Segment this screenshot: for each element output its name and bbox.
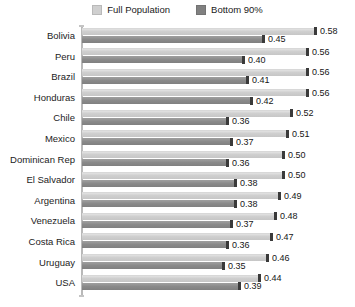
- bar-value-label: 0.46: [268, 252, 290, 265]
- bar-row: Bolivia0.580.45: [0, 26, 355, 47]
- category-label: Uruguay: [0, 256, 75, 270]
- bar-value-label: 0.36: [228, 115, 250, 128]
- plot-area: Bolivia0.580.45Peru0.560.40Brazil0.560.4…: [0, 20, 355, 307]
- bar-row: Brazil0.560.41: [0, 67, 355, 88]
- bar-group: 0.440.39: [82, 273, 355, 294]
- bar-fill-bottom: [82, 180, 234, 187]
- bar-row: USA0.440.39: [0, 273, 355, 294]
- bar-value-label: 0.52: [292, 107, 314, 120]
- bar-fill-bottom: [82, 36, 262, 43]
- y-axis-cap-bottom: [79, 295, 84, 297]
- category-label: Bolivia: [0, 29, 75, 43]
- bar-fill-bottom: [82, 118, 226, 125]
- bar-fill-bottom: [82, 221, 230, 228]
- bar-fill-bottom: [82, 138, 230, 145]
- bar-row: Argentina0.490.38: [0, 191, 355, 212]
- legend-label-bottom-90: Bottom 90%: [211, 5, 263, 15]
- bar-group: 0.500.36: [82, 150, 355, 171]
- bar-row: Dominican Rep0.500.36: [0, 150, 355, 171]
- bar-group: 0.500.38: [82, 170, 355, 191]
- bar-fill-full: [82, 275, 258, 282]
- category-label: Chile: [0, 111, 75, 125]
- chart-legend: Full Population Bottom 90%: [0, 0, 355, 20]
- bar-group: 0.480.37: [82, 211, 355, 232]
- bar-value-label: 0.49: [280, 190, 302, 203]
- bar-row: Peru0.560.40: [0, 47, 355, 68]
- category-label: Honduras: [0, 91, 75, 105]
- category-label: Venezuela: [0, 214, 75, 228]
- bar-value-label: 0.40: [244, 54, 266, 67]
- bar-group: 0.560.40: [82, 47, 355, 68]
- bar-fill-full: [82, 48, 306, 55]
- bar-fill-bottom: [82, 262, 222, 269]
- bar-rows: Bolivia0.580.45Peru0.560.40Brazil0.560.4…: [0, 26, 355, 294]
- bar-value-label: 0.51: [288, 128, 310, 141]
- bar-fill-full: [82, 110, 290, 117]
- bar-fill-bottom: [82, 241, 226, 248]
- legend-item-bottom-90: Bottom 90%: [196, 5, 263, 15]
- bar-group: 0.560.41: [82, 67, 355, 88]
- bar-value-label: 0.56: [308, 87, 330, 100]
- bar-row: El Salvador0.500.38: [0, 170, 355, 191]
- bar-fill-bottom: [82, 56, 242, 63]
- bar-row: Chile0.520.36: [0, 108, 355, 129]
- bar-value-label: 0.39: [240, 280, 262, 293]
- bar-value-label: 0.36: [228, 239, 250, 252]
- bar-value-label: 0.48: [276, 210, 298, 223]
- bar-row: Uruguay0.460.35: [0, 253, 355, 274]
- bar-value-label: 0.58: [316, 25, 338, 38]
- bar-fill-full: [82, 130, 286, 137]
- bar-value-label: 0.41: [248, 74, 270, 87]
- bar-chart: Full Population Bottom 90% Bolivia0.580.…: [0, 0, 355, 307]
- bar-value-label: 0.36: [228, 157, 250, 170]
- bar-fill-bottom: [82, 97, 250, 104]
- bar-group: 0.560.42: [82, 88, 355, 109]
- category-label: Costa Rica: [0, 235, 75, 249]
- bar-value-label: 0.56: [308, 66, 330, 79]
- bar-group: 0.460.35: [82, 253, 355, 274]
- legend-label-full-population: Full Population: [107, 5, 170, 15]
- bar-group: 0.520.36: [82, 108, 355, 129]
- category-label: Mexico: [0, 132, 75, 146]
- category-label: Dominican Rep: [0, 153, 75, 167]
- bar-fill-bottom: [82, 200, 234, 207]
- bar-value-label: 0.37: [232, 136, 254, 149]
- bar-group: 0.510.37: [82, 129, 355, 150]
- bar-value-label: 0.38: [236, 198, 258, 211]
- category-label: USA: [0, 276, 75, 290]
- category-label: Peru: [0, 50, 75, 64]
- category-label: El Salvador: [0, 173, 75, 187]
- bar-value-label: 0.45: [264, 33, 286, 46]
- bar-fill-full: [82, 69, 306, 76]
- bar-value-label: 0.38: [236, 177, 258, 190]
- legend-swatch-icon-bottom-90: [196, 5, 206, 15]
- bar-row: Costa Rica0.470.36: [0, 232, 355, 253]
- bar-value-label: 0.50: [284, 149, 306, 162]
- bar-fill-bottom: [82, 77, 246, 84]
- bar-value-label: 0.44: [260, 272, 282, 285]
- bar-value-label: 0.37: [232, 218, 254, 231]
- bar-fill-bottom: [82, 283, 238, 290]
- bar-fill-full: [82, 151, 282, 158]
- bar-value-label: 0.47: [272, 231, 294, 244]
- bar-fill-bottom: [82, 159, 226, 166]
- bar-row: Venezuela0.480.37: [0, 211, 355, 232]
- bar-value-label: 0.42: [252, 95, 274, 108]
- bar-value-label: 0.35: [224, 260, 246, 273]
- category-label: Argentina: [0, 194, 75, 208]
- legend-swatch-icon-full-population: [92, 5, 102, 15]
- bar-value-label: 0.56: [308, 46, 330, 59]
- bar-row: Mexico0.510.37: [0, 129, 355, 150]
- legend-item-full-population: Full Population: [92, 5, 170, 15]
- bar-group: 0.470.36: [82, 232, 355, 253]
- bar-value-label: 0.50: [284, 169, 306, 182]
- bar-group: 0.580.45: [82, 26, 355, 47]
- bar-row: Honduras0.560.42: [0, 88, 355, 109]
- bar-group: 0.490.38: [82, 191, 355, 212]
- category-label: Brazil: [0, 70, 75, 84]
